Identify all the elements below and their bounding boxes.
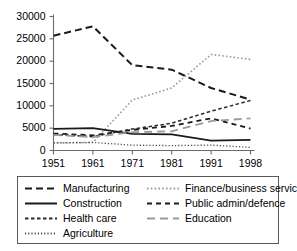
series-line bbox=[54, 142, 251, 147]
x-axis-tick-label: 1998 bbox=[226, 158, 276, 169]
legend-item[interactable]: Health care bbox=[24, 213, 146, 224]
legend-item-label: Agriculture bbox=[63, 228, 113, 239]
legend-item-label: Health care bbox=[63, 213, 117, 224]
legend-item-label: Construction bbox=[63, 198, 122, 209]
y-axis-tick-label: 5000 bbox=[0, 122, 46, 133]
y-axis-tick-label: 15000 bbox=[0, 78, 46, 89]
legend-item[interactable]: Agriculture bbox=[24, 228, 146, 239]
legend-line-sample bbox=[24, 183, 58, 194]
legend-item-label: Education bbox=[185, 213, 232, 224]
legend-line-sample bbox=[146, 198, 180, 209]
chart-legend: ManufacturingFinance/business servicesCo… bbox=[17, 176, 279, 244]
legend-line-sample bbox=[24, 213, 58, 224]
legend-line-sample bbox=[146, 213, 180, 224]
legend-line-sample bbox=[24, 228, 58, 239]
legend-item[interactable]: Manufacturing bbox=[24, 183, 146, 194]
legend-item-label: Public admin/defence bbox=[185, 198, 285, 209]
y-axis-tick-label: 20000 bbox=[0, 55, 46, 66]
chart-figure: 0500010000150002000025000300001951196119… bbox=[0, 0, 297, 251]
legend-item-label: Finance/business services bbox=[185, 183, 297, 194]
legend-item[interactable]: Public admin/defence bbox=[146, 198, 285, 209]
legend-item[interactable]: Construction bbox=[24, 198, 146, 209]
y-axis-tick-label: 0 bbox=[0, 145, 46, 156]
y-axis-tick-label: 10000 bbox=[0, 100, 46, 111]
y-axis-tick-label: 25000 bbox=[0, 33, 46, 44]
plot-area: 0500010000150002000025000300001951196119… bbox=[0, 0, 297, 170]
legend-row: Health careEducation bbox=[24, 211, 276, 226]
series-line bbox=[54, 26, 251, 99]
legend-row: ConstructionPublic admin/defence bbox=[24, 196, 276, 211]
legend-item[interactable]: Education bbox=[146, 213, 276, 224]
legend-line-sample bbox=[24, 198, 58, 209]
legend-item-label: Manufacturing bbox=[63, 183, 130, 194]
legend-row: Agriculture bbox=[24, 226, 276, 241]
legend-grid: ManufacturingFinance/business servicesCo… bbox=[24, 181, 276, 241]
legend-item[interactable]: Finance/business services bbox=[146, 183, 297, 194]
y-axis-tick-label: 30000 bbox=[0, 11, 46, 22]
legend-line-sample bbox=[146, 183, 180, 194]
legend-row: ManufacturingFinance/business services bbox=[24, 181, 276, 196]
